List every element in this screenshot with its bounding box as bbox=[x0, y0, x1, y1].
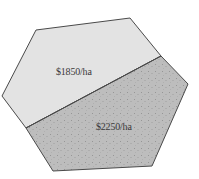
parcel-diagram bbox=[0, 0, 199, 179]
price-label-upper: $1850/ha bbox=[56, 66, 92, 77]
price-label-lower: $2250/ha bbox=[96, 121, 132, 132]
